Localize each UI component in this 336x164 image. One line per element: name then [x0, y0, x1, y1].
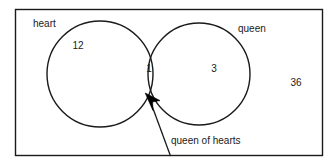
set-label-heart: heart	[33, 18, 56, 29]
venn-diagram-canvas: heart queen 12 1 3 36 queen of hearts	[0, 0, 336, 164]
set-circle-queen	[148, 23, 250, 125]
region-count-outside: 36	[290, 77, 302, 88]
region-count-queen-only: 3	[211, 63, 217, 74]
universal-set-rectangle	[16, 10, 323, 156]
venn-diagram-figure: heart queen 12 1 3 36 queen of hearts	[0, 0, 336, 164]
callout-label-queen-of-hearts: queen of hearts	[171, 135, 241, 146]
set-circle-heart	[47, 21, 153, 127]
set-label-queen: queen	[238, 23, 266, 34]
region-count-intersection: 1	[146, 63, 152, 74]
region-count-heart-only: 12	[72, 40, 84, 51]
